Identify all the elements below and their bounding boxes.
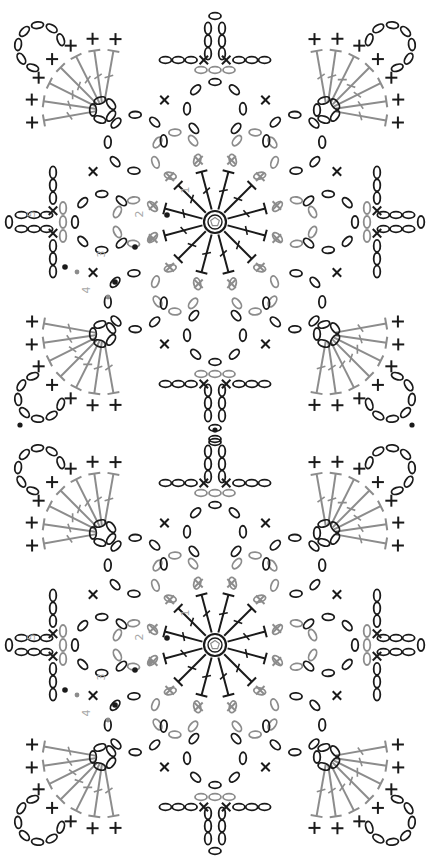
motif-bottom: 12345 bbox=[6, 436, 425, 855]
chain-stitch bbox=[209, 782, 221, 789]
chain-stitch bbox=[403, 226, 415, 233]
chain-stitch bbox=[269, 156, 279, 170]
dc-stitch bbox=[174, 604, 206, 636]
sc-stitch bbox=[33, 360, 45, 372]
sc-stitch bbox=[87, 822, 99, 834]
chain-stitch bbox=[109, 578, 122, 591]
chain-stitch bbox=[183, 103, 190, 115]
chain-stitch bbox=[302, 237, 315, 250]
round-label-2: 2 bbox=[133, 634, 146, 641]
chain-stitch bbox=[386, 21, 399, 29]
chain-stitch bbox=[329, 756, 341, 770]
round-label-1: 1 bbox=[179, 187, 192, 194]
sc-stitch bbox=[26, 761, 38, 773]
chain-stitch bbox=[403, 378, 415, 392]
sc-stitch bbox=[46, 802, 58, 814]
chain-stitch bbox=[364, 398, 374, 412]
chain-stitch bbox=[56, 456, 66, 470]
chain-stitch bbox=[31, 444, 44, 452]
slip-stitch bbox=[62, 687, 68, 693]
chain-stitch bbox=[160, 558, 167, 570]
sc-stitch bbox=[46, 53, 58, 65]
chain-stitch bbox=[230, 545, 243, 558]
chain-stitch bbox=[290, 270, 302, 277]
chain-stitch bbox=[209, 67, 221, 74]
sc-stitch bbox=[372, 53, 384, 65]
chain-stitch bbox=[169, 129, 181, 136]
chain-stitch bbox=[45, 445, 59, 457]
chain-stitch bbox=[317, 115, 330, 125]
chain-stitch bbox=[26, 794, 40, 804]
chain-stitch bbox=[31, 21, 44, 29]
round-label-3: 3 bbox=[95, 251, 108, 258]
chain-stitch bbox=[18, 448, 31, 461]
chain-stitch bbox=[209, 490, 221, 497]
chain-stitch bbox=[18, 829, 31, 842]
slip-stitch bbox=[62, 264, 68, 270]
dc-stitch bbox=[224, 604, 256, 636]
chain-stitch bbox=[60, 202, 67, 214]
chain-stitch bbox=[223, 794, 235, 801]
chain-stitch bbox=[50, 240, 57, 252]
dc-stitch bbox=[163, 648, 202, 664]
chain-stitch bbox=[45, 410, 59, 422]
chain-stitch bbox=[228, 83, 241, 96]
chain-stitch bbox=[386, 838, 399, 846]
chain-stitch bbox=[239, 526, 246, 538]
chain-stitch bbox=[219, 820, 226, 832]
chain-stitch bbox=[112, 628, 123, 642]
chain-stitch bbox=[230, 732, 243, 745]
chain-stitch bbox=[374, 615, 381, 627]
chain-stitch bbox=[289, 111, 301, 118]
chain-stitch bbox=[93, 95, 106, 105]
sc-stitch bbox=[392, 517, 404, 529]
chain-stitch bbox=[6, 216, 13, 228]
chain-stitch bbox=[259, 480, 271, 487]
chain-stitch bbox=[105, 756, 117, 770]
sc-stitch bbox=[110, 822, 122, 834]
dc-stitch bbox=[56, 763, 97, 804]
sc-stitch bbox=[156, 515, 173, 532]
chain-stitch bbox=[76, 619, 89, 632]
dc-stitch bbox=[218, 235, 234, 274]
chain-stitch bbox=[209, 13, 221, 20]
chain-stitch bbox=[148, 539, 161, 552]
sc-stitch bbox=[353, 392, 365, 404]
sc-stitch bbox=[26, 517, 38, 529]
chain-stitch bbox=[219, 410, 226, 422]
pentagon-icon bbox=[211, 641, 220, 649]
chain-stitch bbox=[205, 35, 212, 47]
chain-stitch bbox=[322, 613, 334, 620]
chain-stitch bbox=[329, 333, 341, 347]
chain-stitch bbox=[314, 328, 321, 340]
chain-stitch bbox=[209, 359, 221, 366]
chain-stitch bbox=[50, 266, 57, 278]
chain-stitch bbox=[317, 339, 330, 349]
sc-stitch bbox=[257, 515, 274, 532]
sc-stitch bbox=[353, 815, 365, 827]
chain-stitch bbox=[15, 52, 27, 66]
dc-stitch bbox=[311, 50, 326, 102]
sc-stitch bbox=[85, 687, 102, 704]
chain-stitch bbox=[266, 559, 278, 573]
chain-stitch bbox=[319, 559, 326, 571]
chain-stitch bbox=[115, 660, 128, 673]
chain-stitch bbox=[290, 240, 303, 248]
chain-stitch bbox=[418, 639, 425, 651]
sc-stitch bbox=[372, 802, 384, 814]
dc-stitch bbox=[335, 111, 387, 126]
motifs-layer: 1234512345 bbox=[6, 13, 425, 855]
dc-stitch bbox=[311, 765, 326, 817]
chain-stitch bbox=[187, 545, 200, 558]
sc-stitch bbox=[257, 758, 274, 775]
chain-stitch bbox=[93, 339, 106, 349]
chain-stitch bbox=[371, 410, 385, 422]
chain-stitch bbox=[183, 329, 190, 341]
chain-stitch bbox=[205, 458, 212, 470]
chain-stitch bbox=[317, 518, 330, 528]
chain-stitch bbox=[209, 794, 221, 801]
slip-stitch bbox=[148, 237, 153, 242]
chain-stitch bbox=[408, 461, 416, 474]
chain-stitch bbox=[302, 660, 315, 673]
dc-stitch bbox=[174, 654, 206, 686]
